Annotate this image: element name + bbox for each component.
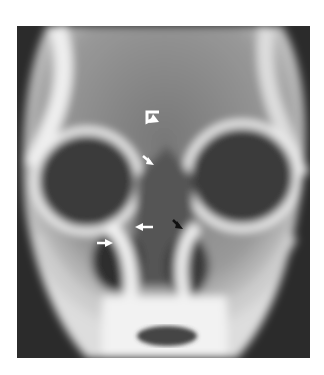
cropped-caption-fragment — [12, 364, 312, 372]
skull-radiograph — [17, 26, 310, 358]
